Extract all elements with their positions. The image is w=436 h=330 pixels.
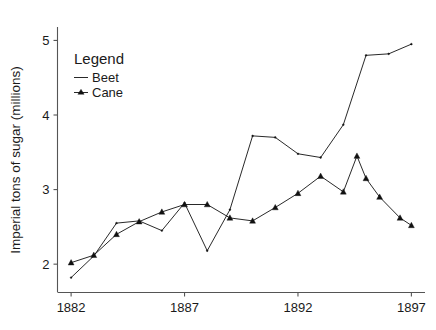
data-point-beet (70, 277, 72, 279)
sugar-production-line-chart: 2345 1882188718921897 Imperial tons of s… (0, 0, 436, 330)
y-tick-label: 2 (42, 257, 49, 272)
data-point-beet (206, 250, 208, 252)
data-point-beet (229, 209, 231, 211)
data-point-beet (297, 153, 299, 155)
data-point-cane (354, 153, 360, 158)
x-tick-label: 1897 (397, 300, 426, 315)
y-axis-title: Imperial tons of sugar (millions) (8, 66, 23, 254)
y-axis-ticks: 2345 (42, 33, 57, 272)
data-point-beet (410, 43, 412, 45)
y-tick-label: 4 (42, 108, 49, 123)
data-point-cane (295, 190, 301, 195)
legend: Legend Beet Cane (74, 50, 124, 100)
x-tick-label: 1892 (284, 300, 313, 315)
data-point-cane (272, 204, 278, 209)
y-tick-label: 3 (42, 182, 49, 197)
data-point-beet (342, 124, 344, 126)
legend-title: Legend (74, 50, 124, 67)
legend-label-beet: Beet (92, 70, 119, 85)
data-point-cane (227, 215, 233, 220)
data-point-beet (252, 135, 254, 137)
data-point-beet (116, 222, 118, 224)
data-point-beet (161, 230, 163, 232)
data-point-beet (274, 136, 276, 138)
series-markers-beet (70, 43, 412, 278)
legend-label-cane: Cane (92, 85, 123, 100)
data-point-cane (408, 222, 414, 227)
y-tick-label: 5 (42, 33, 49, 48)
data-point-beet (365, 54, 367, 56)
data-point-beet (320, 157, 322, 159)
legend-triangle-cane-icon (78, 89, 84, 94)
data-point-cane (340, 189, 346, 194)
data-point-cane (363, 175, 369, 180)
chart-canvas: 2345 1882188718921897 Imperial tons of s… (0, 0, 436, 330)
x-tick-label: 1887 (170, 300, 199, 315)
x-axis-ticks: 1882188718921897 (57, 293, 426, 315)
data-point-cane (114, 231, 120, 236)
x-tick-label: 1882 (57, 300, 86, 315)
data-point-cane (318, 173, 324, 178)
series-line-beet (71, 44, 411, 277)
data-point-beet (388, 53, 390, 55)
